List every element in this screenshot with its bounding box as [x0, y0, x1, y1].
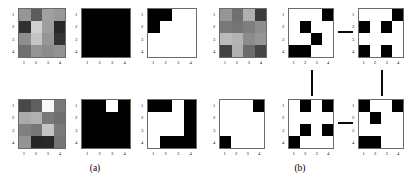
figure-canvas: 1234123412341234123412341234123412341234… [0, 0, 420, 185]
y-tick-label: 4 [352, 49, 354, 54]
matrix-panel-a-top-grayscale: 12341234 [18, 8, 66, 58]
x-tick-label: 1 [23, 151, 25, 156]
matrix-cell [160, 33, 172, 45]
y-tick-label: 1 [352, 12, 354, 17]
matrix-cell [311, 124, 322, 136]
matrix-panel-b-bottom-binary-2: 12341234 [288, 99, 334, 149]
y-axis-ticks: 1234 [352, 99, 354, 149]
x-tick-label: 3 [386, 151, 388, 156]
matrix-cell [19, 33, 31, 45]
matrix-cell [106, 21, 118, 33]
x-tick-label: 4 [59, 151, 61, 156]
y-tick-label: 4 [141, 49, 143, 54]
plot-box [81, 8, 131, 58]
y-tick-label: 3 [282, 37, 284, 42]
matrix-cell [54, 136, 66, 148]
matrix-cell [31, 33, 43, 45]
matrix-cell [106, 100, 118, 112]
matrix-cell [42, 100, 54, 112]
matrix-cell [160, 21, 172, 33]
matrix-cell [322, 33, 333, 45]
matrix-cell [289, 100, 300, 112]
matrix-cell [359, 9, 370, 21]
matrix-grid [220, 100, 264, 148]
y-tick-label: 4 [12, 49, 14, 54]
matrix-cell [42, 21, 54, 33]
matrix-cell [311, 112, 322, 124]
matrix-grid [289, 100, 333, 148]
matrix-cell [242, 112, 253, 124]
x-tick-label: 3 [316, 151, 318, 156]
matrix-cell [82, 45, 94, 57]
matrix-cell [19, 9, 31, 21]
matrix-cell [392, 9, 403, 21]
y-axis-ticks: 1234 [282, 8, 284, 58]
matrix-cell [148, 33, 160, 45]
matrix-cell [322, 124, 333, 136]
matrix-cell [253, 112, 264, 124]
x-tick-label: 3 [177, 151, 179, 156]
matrix-cell [184, 136, 196, 148]
matrix-cell [172, 9, 184, 21]
matrix-cell [160, 136, 172, 148]
y-tick-label: 4 [12, 140, 14, 145]
matrix-cell [359, 124, 370, 136]
matrix-cell [118, 112, 130, 124]
matrix-cell [381, 136, 392, 148]
x-tick-label: 1 [363, 60, 365, 65]
x-axis-ticks: 1234 [219, 60, 267, 65]
y-tick-label: 1 [75, 103, 77, 108]
x-axis-ticks: 1234 [358, 60, 404, 65]
matrix-cell [300, 45, 311, 57]
y-axis-ticks: 1234 [213, 8, 215, 58]
x-axis-ticks: 1234 [81, 151, 131, 156]
y-tick-label: 1 [282, 12, 284, 17]
matrix-cell [42, 45, 54, 57]
x-tick-label: 3 [248, 60, 250, 65]
matrix-cell [232, 21, 244, 33]
y-tick-label: 1 [352, 103, 354, 108]
matrix-cell [31, 124, 43, 136]
matrix-cell [118, 136, 130, 148]
matrix-cell [94, 112, 106, 124]
matrix-cell [54, 9, 66, 21]
y-tick-label: 2 [141, 115, 143, 120]
x-tick-label: 4 [260, 60, 262, 65]
plot-box [358, 8, 404, 58]
x-tick-label: 4 [59, 60, 61, 65]
x-tick-label: 2 [374, 60, 376, 65]
matrix-cell [381, 9, 392, 21]
matrix-cell [94, 136, 106, 148]
plot-box [288, 99, 334, 149]
matrix-cell [392, 100, 403, 112]
y-tick-label: 1 [282, 103, 284, 108]
matrix-cell [94, 9, 106, 21]
plot-box [288, 8, 334, 58]
matrix-cell [311, 100, 322, 112]
matrix-cell [19, 45, 31, 57]
matrix-cell [31, 112, 43, 124]
matrix-cell [106, 33, 118, 45]
matrix-cell [311, 33, 322, 45]
y-axis-ticks: 1234 [75, 99, 77, 149]
matrix-cell [359, 100, 370, 112]
matrix-cell [118, 9, 130, 21]
plot-box [147, 8, 197, 58]
y-tick-label: 4 [282, 140, 284, 145]
x-tick-label: 1 [363, 151, 365, 156]
matrix-cell [300, 136, 311, 148]
matrix-cell [19, 124, 31, 136]
matrix-cell [118, 124, 130, 136]
x-axis-ticks: 1234 [147, 60, 197, 65]
matrix-cell [300, 9, 311, 21]
x-tick-label: 2 [304, 151, 306, 156]
matrix-cell [148, 21, 160, 33]
y-tick-label: 3 [352, 128, 354, 133]
y-tick-label: 3 [12, 37, 14, 42]
matrix-cell [160, 9, 172, 21]
y-tick-label: 2 [352, 115, 354, 120]
x-tick-label: 2 [374, 151, 376, 156]
matrix-cell [381, 33, 392, 45]
x-tick-label: 3 [316, 60, 318, 65]
matrix-cell [19, 136, 31, 148]
